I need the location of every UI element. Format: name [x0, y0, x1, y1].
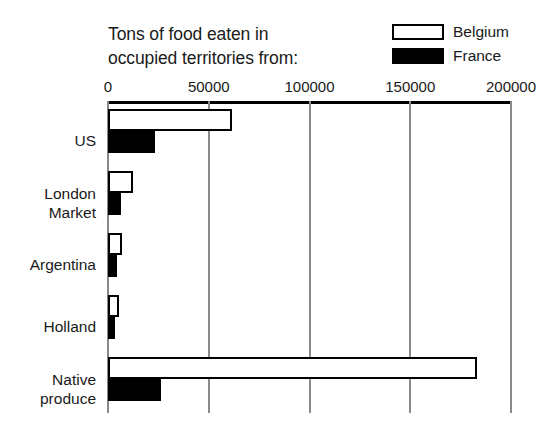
- category-label: Argentina: [0, 255, 96, 274]
- bar-group: LondonMarket: [0, 171, 542, 233]
- bar-group: Holland: [0, 295, 542, 357]
- bar-france: [108, 379, 161, 401]
- x-tick-label: 0: [104, 78, 112, 95]
- bar-belgium: [108, 233, 122, 255]
- category-label: US: [0, 131, 96, 150]
- bar-group: Argentina: [0, 233, 542, 295]
- bar-france: [108, 317, 115, 339]
- x-axis-tick-labels: 050000100000150000200000: [0, 78, 542, 100]
- bar-belgium: [108, 109, 232, 131]
- category-label-line: Holland: [0, 317, 96, 336]
- chart-plot-area: 050000100000150000200000 USLondonMarketA…: [0, 0, 542, 441]
- category-label: LondonMarket: [0, 184, 96, 222]
- bar-group: US: [0, 109, 542, 171]
- category-label-line: produce: [0, 389, 96, 408]
- x-tick-label: 150000: [385, 78, 435, 95]
- bar-france: [108, 131, 155, 153]
- category-label-line: Market: [0, 203, 96, 222]
- bar-france: [108, 193, 121, 215]
- x-tick-label: 100000: [284, 78, 334, 95]
- category-label-line: London: [0, 184, 96, 203]
- category-label: Nativeproduce: [0, 370, 96, 408]
- bar-belgium: [108, 171, 133, 193]
- chart-bar-groups: USLondonMarketArgentinaHollandNativeprod…: [0, 101, 542, 413]
- category-label: Holland: [0, 317, 96, 336]
- category-label-line: Argentina: [0, 255, 96, 274]
- x-tick-label: 200000: [486, 78, 536, 95]
- category-label-line: Native: [0, 370, 96, 389]
- bar-france: [108, 255, 117, 277]
- bar-belgium: [108, 357, 477, 379]
- category-label-line: US: [0, 131, 96, 150]
- bar-group: Nativeproduce: [0, 357, 542, 419]
- x-tick-label: 50000: [188, 78, 230, 95]
- bar-belgium: [108, 295, 119, 317]
